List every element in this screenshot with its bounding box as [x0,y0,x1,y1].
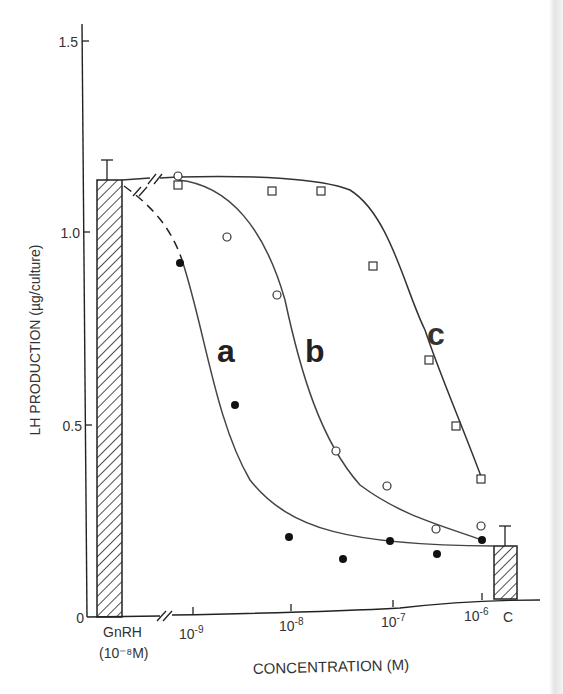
x-label-gnrh-conc: (10⁻⁸M) [99,645,148,661]
page-edge-shadow [549,0,563,694]
x-label-c: C [503,609,513,625]
curve-label-a: a [217,333,235,369]
curve-label-c: c [427,316,445,352]
curve-label-b: b [305,333,325,369]
y-tick-1.0: 1.0 [61,225,81,241]
x-label-gnrh: GnRH [103,624,142,640]
x-axis-label: CONCENTRATION (M) [253,656,410,677]
x-tick-1e-6: 10-6 [464,606,489,624]
y-axis-label: LH PRODUCTION (µg/culture) [27,245,43,436]
y-axis: 1.5 1.0 0.5 0 LH PRODUCTION (µg/culture) [27,24,92,626]
bar-gnrh [97,160,122,617]
bar-control [494,526,517,599]
x-tick-1e-7: 10-7 [381,612,406,630]
series-a-points [176,259,486,563]
x-axis: 10-9 10-8 10-7 10-6 C GnRH (10⁻⁸M) CONCE… [87,593,540,677]
y-tick-0: 0 [76,610,84,626]
x-tick-1e-8: 10-8 [279,616,304,634]
y-tick-0.5: 0.5 [63,418,83,434]
lh-production-chart: 1.5 1.0 0.5 0 LH PRODUCTION (µg/culture)… [0,0,563,694]
y-tick-1.5: 1.5 [59,34,79,50]
x-tick-1e-9: 10-9 [179,624,204,642]
